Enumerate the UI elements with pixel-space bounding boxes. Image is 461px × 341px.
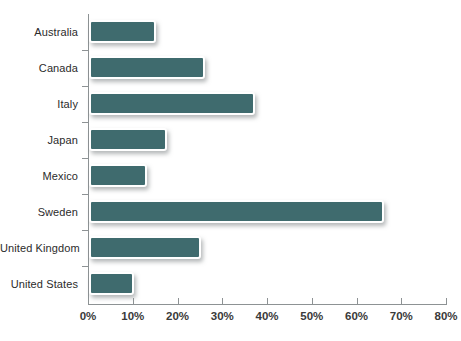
bar-row [88,14,446,50]
x-tick-label: 50% [300,310,323,322]
bar-united-kingdom [89,236,201,259]
x-tick [267,298,268,305]
x-tick-label: 0% [80,310,97,322]
bar-mexico [89,164,147,187]
bar-row [88,266,446,302]
bars-layer [88,14,446,302]
bar-row [88,50,446,86]
bar-japan [89,128,167,151]
x-tick [133,298,134,305]
x-tick-label: 80% [434,310,457,322]
category-label: United Kingdom [0,230,78,266]
bar-australia [89,20,156,43]
plot-area [88,14,446,302]
category-label-wrap: United States [0,266,78,302]
category-label: Australia [0,14,78,50]
x-tick-label: 70% [390,310,413,322]
x-tick-label: 30% [211,310,234,322]
category-label: Mexico [0,158,78,194]
category-label: Italy [0,86,78,122]
bar-sweden [89,200,384,223]
category-label-wrap: Canada [0,50,78,86]
x-tick-label: 10% [121,310,144,322]
category-label-wrap: Japan [0,122,78,158]
x-tick [312,298,313,305]
category-label: United States [0,266,78,302]
category-label: Sweden [0,194,78,230]
bar-row [88,158,446,194]
x-tick [222,298,223,305]
bar-united-states [89,272,134,295]
bar-row [88,86,446,122]
category-label-wrap: Italy [0,86,78,122]
category-label: Japan [0,122,78,158]
x-tick [88,298,89,305]
category-label-wrap: Sweden [0,194,78,230]
bar-chart: AustraliaCanadaItalyJapanMexicoSwedenUni… [0,0,461,341]
x-tick [178,298,179,305]
x-tick-label: 40% [255,310,278,322]
x-tick [357,298,358,305]
x-tick-label: 60% [345,310,368,322]
bar-row [88,122,446,158]
bar-row [88,194,446,230]
category-label: Canada [0,50,78,86]
category-label-wrap: United Kingdom [0,230,78,266]
x-tick-label: 20% [166,310,189,322]
x-tick [401,298,402,305]
bar-row [88,230,446,266]
x-tick [446,298,447,305]
category-label-wrap: Australia [0,14,78,50]
category-label-wrap: Mexico [0,158,78,194]
bar-italy [89,92,255,115]
bar-canada [89,56,205,79]
